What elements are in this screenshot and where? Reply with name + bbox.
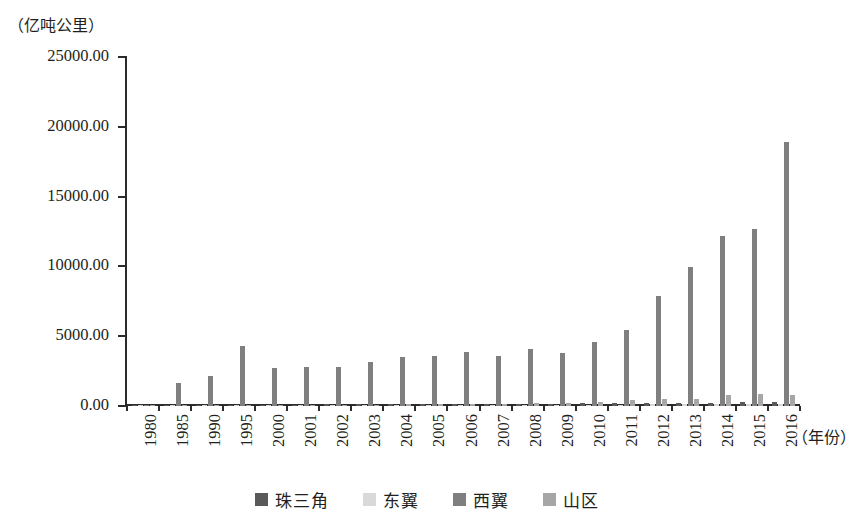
bar — [726, 395, 731, 406]
y-axis-tick-label: 25000.00 — [47, 46, 109, 66]
x-axis-tick-label-text: 2002 — [333, 414, 353, 447]
x-axis-tick-label-text: 1980 — [141, 414, 161, 447]
bar — [624, 330, 629, 406]
bar — [324, 404, 329, 406]
legend-item-label: 珠三角 — [275, 487, 329, 512]
x-axis-tick-mark — [639, 406, 641, 411]
bar — [228, 405, 233, 407]
bar — [560, 353, 565, 406]
bar — [420, 404, 425, 406]
legend-item[interactable]: 山区 — [543, 487, 599, 512]
legend-item[interactable]: 珠三角 — [255, 487, 329, 512]
bar — [176, 383, 181, 406]
bar — [406, 404, 411, 406]
bar — [502, 404, 507, 406]
legend-swatch-icon — [543, 493, 556, 506]
bar-group — [383, 57, 415, 406]
bar — [790, 395, 795, 406]
x-axis-tick-label-text: 2013 — [686, 414, 706, 447]
bar — [388, 404, 393, 406]
legend-item[interactable]: 西翼 — [453, 487, 509, 512]
bar — [202, 405, 207, 407]
x-axis-tick-label-text: 2009 — [558, 414, 578, 447]
bar — [260, 405, 265, 407]
bar-group — [287, 57, 319, 406]
x-axis-tick-mark — [254, 406, 256, 411]
bar — [304, 367, 309, 406]
bar — [330, 405, 335, 407]
y-axis-tick-label: 5000.00 — [55, 325, 109, 345]
legend-item-label: 东翼 — [383, 487, 419, 512]
bar — [784, 142, 789, 406]
x-axis-tick-mark — [350, 406, 352, 411]
bars-layer — [127, 57, 800, 406]
legend-swatch-icon — [453, 493, 466, 506]
x-axis-tick-mark — [767, 406, 769, 411]
bar — [586, 405, 591, 407]
bar — [464, 352, 469, 406]
bar — [708, 403, 713, 406]
bar — [676, 403, 681, 406]
bar — [778, 404, 783, 406]
bar-group — [415, 57, 447, 406]
bar-group — [191, 57, 223, 406]
bar — [484, 404, 489, 406]
bar — [150, 405, 155, 407]
bar-group — [159, 57, 191, 406]
legend-item-label: 山区 — [563, 487, 599, 512]
bar — [580, 403, 585, 406]
bar — [272, 368, 277, 406]
y-axis-tick-label: 10000.00 — [47, 255, 109, 275]
x-axis-tick-label-text: 1990 — [205, 414, 225, 447]
bar — [534, 403, 539, 406]
chart-legend: 珠三角东翼西翼山区 — [0, 487, 853, 512]
legend-swatch-icon — [255, 493, 268, 506]
bar-group — [223, 57, 255, 406]
bar-group — [447, 57, 479, 406]
bar — [432, 356, 437, 406]
x-axis-tick-mark — [158, 406, 160, 411]
y-axis-tick-label: 0.00 — [80, 395, 109, 415]
bar-group — [672, 57, 704, 406]
x-axis-tick-label-text: 2005 — [429, 414, 449, 447]
bar — [298, 405, 303, 407]
x-axis-tick-mark — [575, 406, 577, 411]
x-axis-tick-label-text: 2006 — [462, 414, 482, 447]
bar-chart: （亿吨公里） 0.005000.0010000.0015000.0020000.… — [0, 0, 853, 515]
y-axis-tick-label: 20000.00 — [47, 116, 109, 136]
x-axis-tick-label-text: 1995 — [237, 414, 257, 447]
x-axis-tick-label-text: 2003 — [365, 414, 385, 447]
x-axis-tick-mark — [479, 406, 481, 411]
bar — [400, 357, 405, 406]
x-axis-tick-mark — [446, 406, 448, 411]
bar — [336, 367, 341, 406]
x-axis-tick-mark — [286, 406, 288, 411]
bar — [278, 405, 283, 407]
bar — [246, 405, 251, 407]
bar — [452, 404, 457, 406]
x-axis-tick-mark — [735, 406, 737, 411]
x-axis-tick-mark — [671, 406, 673, 411]
bar — [516, 404, 521, 406]
bar-group — [768, 57, 800, 406]
bar — [266, 405, 271, 407]
bar — [470, 404, 475, 406]
bar-group — [736, 57, 768, 406]
bar — [490, 405, 495, 407]
bar — [720, 236, 725, 406]
bar — [612, 403, 617, 406]
x-axis-tick-mark — [190, 406, 192, 411]
legend-item[interactable]: 东翼 — [363, 487, 419, 512]
x-axis-tick-mark — [703, 406, 705, 411]
bar — [196, 405, 201, 407]
bar — [566, 403, 571, 406]
x-axis-tick-label-text: 2012 — [654, 414, 674, 447]
bar — [394, 405, 399, 407]
x-axis-tick-mark — [126, 406, 128, 411]
x-axis-tick-label-text: 2015 — [750, 414, 770, 447]
bar — [240, 346, 245, 406]
x-axis-unit-label: （年份） — [792, 424, 853, 448]
bar — [214, 405, 219, 407]
bar-group — [704, 57, 736, 406]
x-axis-tick-label-text: 2004 — [397, 414, 417, 447]
